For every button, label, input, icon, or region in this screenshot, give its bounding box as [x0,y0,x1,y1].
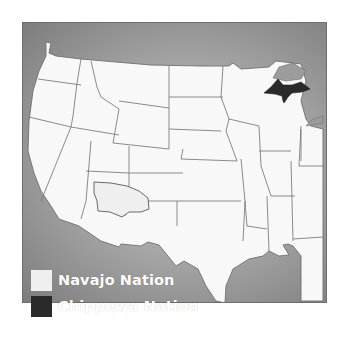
legend-label-chippewa: Chippewa Nation [58,298,198,314]
legend-label-navajo: Navajo Nation [58,272,175,288]
lake [306,116,323,126]
chippewa-swatch [31,296,52,317]
legend-item-chippewa: Chippewa Nation [31,293,198,319]
us-map [23,23,327,303]
map-frame [22,22,327,303]
legend-item-navajo: Navajo Nation [31,267,198,293]
navajo-swatch [31,270,52,291]
map-legend: Navajo Nation Chippewa Nation [31,267,198,319]
